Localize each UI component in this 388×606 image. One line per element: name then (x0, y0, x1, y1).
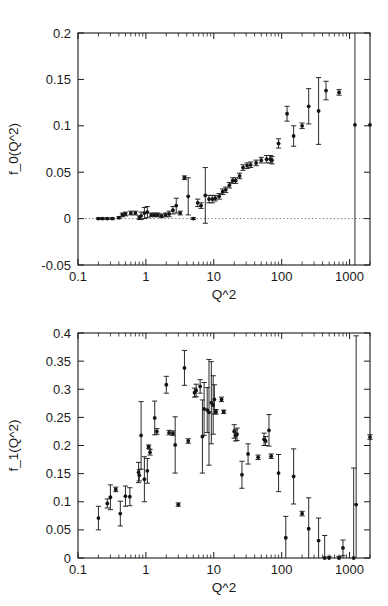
data-point (155, 430, 159, 434)
data-point (178, 211, 182, 215)
data-point (352, 556, 356, 560)
data-point (337, 556, 341, 560)
data-point (222, 410, 226, 414)
data-point (97, 217, 101, 221)
data-point (246, 452, 250, 456)
data-point (213, 196, 217, 200)
data-point (101, 217, 105, 221)
data-point (133, 211, 137, 215)
scatter-plot-f1: 0.1110100100000.050.10.150.20.250.30.350… (0, 303, 388, 606)
y-tick-label: 0 (64, 551, 71, 566)
data-point (292, 134, 296, 138)
data-point (220, 397, 224, 401)
data-point (114, 487, 118, 491)
data-point (317, 539, 321, 543)
data-point (145, 469, 149, 473)
data-point (300, 124, 304, 128)
data-point (214, 410, 218, 414)
data-point (207, 197, 211, 201)
data-point (277, 142, 281, 146)
y-tick-label: 0.4 (53, 326, 71, 341)
data-series (96, 336, 373, 560)
x-tick-label: 100 (271, 562, 293, 577)
data-point (353, 123, 357, 127)
data-point (164, 213, 168, 217)
y-axis-title: f_0(Q^2) (6, 123, 21, 175)
data-point (259, 158, 263, 162)
x-tick-label: 100 (271, 269, 293, 284)
data-point (240, 473, 244, 477)
data-point (171, 431, 175, 435)
data-point (254, 161, 258, 165)
data-point (285, 112, 289, 116)
y-tick-label: 0.35 (46, 354, 71, 369)
data-point (234, 179, 238, 183)
data-point (97, 516, 101, 520)
plot-frame (78, 333, 370, 558)
data-point (145, 210, 149, 214)
data-point (323, 556, 327, 560)
data-point (139, 214, 143, 218)
data-point (186, 439, 190, 443)
data-point (307, 527, 311, 531)
data-point (171, 208, 175, 212)
y-tick-label: 0 (64, 211, 71, 226)
y-tick-label: 0.05 (46, 522, 71, 537)
y-tick-label: 0.3 (53, 382, 71, 397)
data-point (153, 416, 157, 420)
chart-panel-top: 0.11101001000-0.0500.050.10.150.2Q^2f_0(… (0, 0, 388, 303)
scatter-plot-f0: 0.11101001000-0.0500.050.10.150.2Q^2f_0(… (0, 0, 388, 303)
data-point (267, 428, 271, 432)
data-point (124, 212, 128, 216)
data-point (245, 164, 249, 168)
data-point (137, 473, 141, 477)
data-point (317, 109, 321, 113)
data-point (207, 410, 211, 414)
x-tick-label: 10 (207, 269, 221, 284)
data-series (96, 33, 372, 265)
x-tick-label: 10 (207, 562, 221, 577)
y-tick-label: 0.2 (53, 26, 71, 41)
data-point (249, 163, 253, 167)
data-point (368, 123, 372, 127)
data-point (300, 512, 304, 516)
x-axis-title: Q^2 (212, 580, 236, 595)
data-point (118, 512, 122, 516)
y-axis-title: f_1(Q^2) (6, 419, 21, 471)
data-point (142, 477, 146, 481)
data-point (284, 536, 288, 540)
data-point (176, 503, 180, 507)
y-tick-label: 0.1 (53, 118, 71, 133)
data-point (265, 157, 269, 161)
data-point (191, 217, 195, 221)
data-point (186, 194, 190, 198)
data-point (327, 556, 331, 560)
x-tick-label: 1000 (335, 562, 364, 577)
y-tick-label: 0.15 (46, 466, 71, 481)
data-point (238, 174, 242, 178)
data-point (108, 495, 112, 499)
plot-frame (78, 33, 370, 265)
y-tick-label: 0.1 (53, 494, 71, 509)
data-point (241, 166, 245, 170)
data-point (198, 385, 202, 389)
data-point (105, 217, 109, 221)
data-point (264, 439, 268, 443)
x-tick-label: 0.1 (69, 269, 87, 284)
data-point (337, 90, 341, 94)
data-point (269, 454, 273, 458)
data-point (129, 211, 133, 215)
data-point (183, 366, 187, 370)
x-tick-label: 1 (142, 269, 149, 284)
data-point (199, 204, 203, 208)
data-point (148, 450, 152, 454)
data-point (110, 217, 114, 221)
y-tick-label: 0.05 (46, 165, 71, 180)
y-tick-label: -0.05 (41, 258, 71, 273)
data-point (292, 475, 296, 479)
data-point (128, 495, 132, 499)
data-point (217, 194, 221, 198)
data-point (147, 445, 151, 449)
y-tick-label: 0.15 (46, 72, 71, 87)
data-point (341, 546, 345, 550)
